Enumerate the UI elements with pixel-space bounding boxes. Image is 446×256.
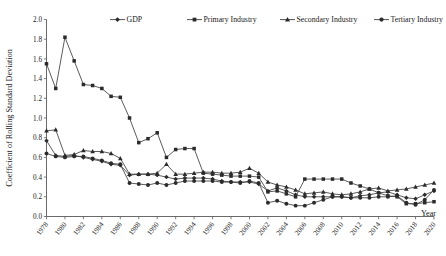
marker-circle [118, 162, 122, 166]
marker-square [340, 177, 344, 181]
y-tick-label: 0.2 [33, 193, 42, 201]
marker-circle [395, 194, 399, 198]
chart-svg: Coefficient of Rolling Standard Deviatio… [0, 0, 446, 256]
marker-circle [220, 180, 224, 184]
x-tick-label: 1994 [183, 220, 198, 237]
marker-square [248, 174, 252, 178]
x-tick-label: 2020 [422, 220, 437, 237]
marker-circle [211, 179, 215, 183]
marker-square [377, 191, 381, 195]
legend-item-secondary-industry[interactable]: Secondary Industry [280, 15, 357, 24]
y-tick-label: 1.4 [33, 75, 42, 83]
marker-diamond [164, 175, 168, 179]
marker-circle [294, 204, 298, 208]
marker-circle [81, 154, 85, 158]
marker-circle [63, 155, 67, 159]
marker-square [63, 35, 66, 39]
marker-circle [248, 179, 252, 183]
marker-circle [146, 183, 150, 187]
marker-circle [312, 201, 316, 205]
y-tick-label: 1.2 [33, 95, 42, 103]
x-tick-label: 1996 [201, 220, 216, 237]
marker-diamond [173, 177, 177, 181]
marker-circle [155, 181, 159, 185]
y-axis-title-group: Coefficient of Rolling Standard Deviatio… [5, 49, 14, 187]
y-tick-label: 2.0 [33, 16, 42, 24]
x-tick-label: 1988 [127, 220, 142, 237]
marker-square [119, 96, 123, 100]
legend-item-primary-industry[interactable]: Primary Industry [187, 15, 257, 24]
legend-item-gdp[interactable]: GDP [110, 15, 143, 24]
legend-group: GDPPrimary IndustrySecondary IndustryTer… [110, 15, 443, 24]
legend-label: Secondary Industry [297, 15, 358, 24]
marker-circle [379, 17, 383, 21]
x-tick-label: 2016 [386, 220, 401, 237]
marker-square [312, 177, 316, 181]
marker-square [165, 156, 169, 160]
legend-label: Primary Industry [204, 15, 257, 24]
marker-triangle [81, 148, 86, 152]
axis-frame [47, 20, 435, 217]
marker-circle [414, 203, 418, 207]
marker-circle [423, 198, 427, 202]
marker-circle [377, 195, 381, 199]
x-tick-label: 1990 [146, 220, 161, 237]
y-tick-label: 1.8 [33, 36, 42, 44]
marker-square [257, 175, 261, 179]
marker-square [303, 177, 307, 181]
marker-square [285, 192, 289, 196]
marker-circle [229, 180, 233, 184]
series-tertiary-industry [45, 152, 436, 208]
marker-circle [303, 204, 307, 208]
marker-circle [128, 181, 132, 185]
marker-square [146, 137, 150, 141]
marker-square [349, 181, 353, 185]
x-tick-label: 2010 [330, 220, 345, 237]
series-path [47, 153, 435, 205]
x-tick-label: 2008 [312, 220, 327, 237]
y-tick-label: 0.6 [33, 154, 42, 162]
legend-item-tertiary-industry[interactable]: Tertiary Industry [374, 15, 443, 24]
marker-triangle [164, 162, 169, 166]
y-axis-title: Coefficient of Rolling Standard Deviatio… [5, 49, 14, 187]
marker-square [294, 195, 298, 199]
axis-lines-group [47, 20, 435, 217]
x-axis-ticks-group: 1978198019821984198619881990199219941996… [35, 217, 438, 238]
marker-circle [201, 179, 205, 183]
marker-square [193, 18, 197, 22]
marker-circle [358, 196, 362, 200]
x-tick-label: 2018 [404, 220, 419, 237]
marker-circle [275, 199, 279, 203]
x-tick-label: 1992 [164, 220, 179, 237]
y-tick-label: 0.4 [33, 174, 42, 182]
y-tick-label: 1.6 [33, 56, 42, 64]
marker-circle [284, 202, 288, 206]
marker-square [174, 148, 178, 152]
marker-circle [349, 196, 353, 200]
marker-circle [386, 195, 390, 199]
marker-circle [54, 154, 58, 158]
marker-triangle [432, 181, 437, 185]
marker-circle [192, 179, 196, 183]
marker-square [155, 131, 159, 135]
marker-square [432, 200, 436, 204]
marker-circle [100, 158, 104, 162]
marker-square [100, 87, 104, 91]
marker-square [358, 184, 362, 188]
marker-square [72, 59, 76, 63]
x-tick-label: 1986 [109, 220, 124, 237]
marker-diamond [312, 195, 316, 199]
x-tick-label: 2000 [238, 220, 253, 237]
series-path [47, 37, 435, 203]
data-series-group [44, 35, 436, 207]
marker-circle [45, 152, 49, 156]
marker-diamond [44, 138, 48, 142]
marker-diamond [404, 196, 408, 200]
marker-square [322, 177, 326, 181]
marker-square [183, 147, 187, 151]
x-tick-label: 1982 [72, 220, 87, 237]
x-tick-label: 2004 [275, 220, 290, 237]
x-axis-title: Year [421, 209, 436, 218]
marker-diamond [423, 193, 427, 197]
marker-triangle [53, 127, 58, 131]
